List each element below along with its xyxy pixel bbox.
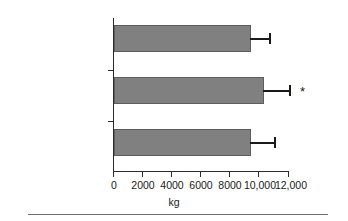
x-axis-tick-label: 0 (111, 179, 117, 191)
bar-creatine-beta-alanine (114, 77, 264, 104)
error-bar-line-creatine-only (250, 38, 270, 40)
bar-chart-figure: 0 2000 4000 6000 8000 10,000 12,000 Crea… (0, 0, 348, 221)
x-axis-tick-label: 2000 (131, 179, 154, 191)
bottom-divider (28, 214, 328, 215)
error-bar-line-placebo (250, 142, 275, 144)
x-axis-tick-0 (113, 172, 114, 177)
x-axis-tick-label: 8000 (218, 179, 241, 191)
y-axis-tick (108, 70, 114, 71)
x-axis-title: kg (0, 196, 348, 208)
x-axis-tick-label: 10,000 (244, 179, 276, 191)
x-axis-tick-label: 6000 (189, 179, 212, 191)
y-axis-tick (108, 121, 114, 122)
significance-asterisk: * (300, 85, 305, 98)
error-bar-cap-creatine-only (269, 33, 271, 44)
bar-creatine-only (114, 25, 251, 52)
error-bar-line-creatine-beta-alanine (263, 90, 290, 92)
x-axis-tick-2000 (142, 172, 143, 177)
x-axis-tick-6000 (200, 172, 201, 177)
bar-placebo (114, 129, 251, 156)
x-axis-tick-10000 (258, 172, 259, 177)
x-axis-tick-8000 (229, 172, 230, 177)
x-axis-tick-label: 12,000 (275, 179, 307, 191)
x-axis-tick-label: 4000 (160, 179, 183, 191)
x-axis-tick-12000 (288, 172, 289, 177)
x-axis-tick-4000 (171, 172, 172, 177)
error-bar-cap-creatine-beta-alanine (289, 85, 291, 96)
error-bar-cap-placebo (274, 137, 276, 148)
